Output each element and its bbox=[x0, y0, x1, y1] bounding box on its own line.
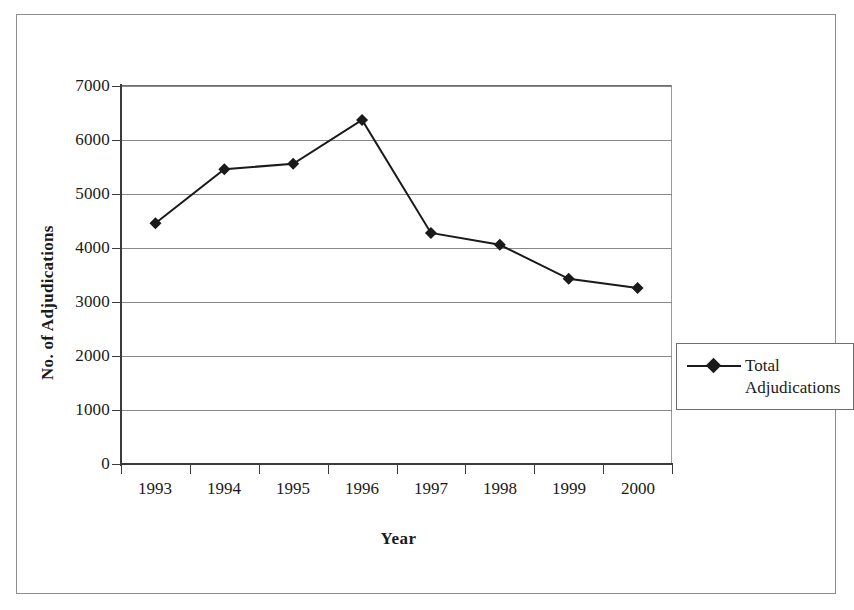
x-axis-title: Year bbox=[0, 529, 797, 549]
x-tick-label: 1993 bbox=[115, 480, 195, 498]
x-tick-mark bbox=[259, 465, 260, 474]
x-tick-label: 1999 bbox=[529, 480, 609, 498]
gridline bbox=[121, 86, 672, 87]
x-tick-label: 2000 bbox=[598, 480, 678, 498]
x-tick-mark bbox=[328, 465, 329, 474]
gridline bbox=[121, 410, 672, 411]
y-tick-label: 7000 bbox=[0, 77, 110, 94]
legend-label-line-2: Adjudications bbox=[745, 378, 840, 397]
x-tick-mark bbox=[465, 465, 466, 474]
x-tick-label: 1998 bbox=[460, 480, 540, 498]
chart-legend: TotalAdjudications bbox=[676, 343, 854, 410]
x-tick-mark bbox=[121, 465, 122, 474]
x-tick-mark bbox=[672, 465, 673, 474]
gridline bbox=[121, 194, 672, 195]
x-tick-label: 1997 bbox=[391, 480, 471, 498]
gridline bbox=[121, 248, 672, 249]
y-tick-label: 6000 bbox=[0, 131, 110, 148]
gridline bbox=[121, 356, 672, 357]
diamond-marker-icon bbox=[706, 358, 722, 374]
gridline bbox=[121, 302, 672, 303]
legend-label-line-1: Total bbox=[745, 356, 780, 375]
y-axis-line bbox=[120, 84, 122, 466]
x-tick-mark bbox=[190, 465, 191, 474]
x-tick-label: 1994 bbox=[184, 480, 264, 498]
legend-marker-icon bbox=[687, 357, 741, 375]
y-tick-label: 1000 bbox=[0, 401, 110, 418]
plot-right-border bbox=[671, 85, 672, 464]
legend-entry: TotalAdjudications bbox=[687, 355, 851, 399]
plot-area bbox=[121, 86, 672, 464]
y-axis-title: No. of Adjudications bbox=[38, 356, 58, 380]
x-tick-label: 1995 bbox=[253, 480, 333, 498]
gridline bbox=[121, 140, 672, 141]
x-tick-mark bbox=[397, 465, 398, 474]
y-tick-label: 0 bbox=[0, 455, 110, 472]
legend-label: TotalAdjudications bbox=[745, 355, 851, 399]
x-tick-label: 1996 bbox=[322, 480, 402, 498]
y-tick-label: 5000 bbox=[0, 185, 110, 202]
x-tick-mark bbox=[534, 465, 535, 474]
x-tick-mark bbox=[603, 465, 604, 474]
